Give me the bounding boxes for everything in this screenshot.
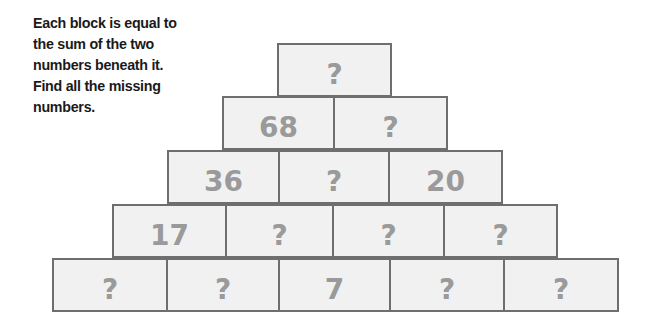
pyramid-block-r5-c2[interactable]: ? [166, 258, 280, 312]
pyramid-block-r2-c2[interactable]: ? [333, 96, 448, 150]
pyramid-block-r4-c1[interactable]: 17 [112, 204, 227, 258]
pyramid-block-r5-c1[interactable]: ? [52, 258, 168, 312]
pyramid-block-r5-c4[interactable]: ? [389, 258, 505, 312]
pyramid-block-r5-c3[interactable]: 7 [278, 258, 391, 312]
pyramid-block-r3-c2[interactable]: ? [278, 150, 390, 204]
pyramid-block-r4-c2[interactable]: ? [225, 204, 334, 258]
pyramid-block-r1-c1[interactable]: ? [277, 43, 392, 97]
pyramid-block-r2-c1[interactable]: 68 [222, 96, 335, 150]
pyramid-block-r3-c1[interactable]: 36 [167, 150, 280, 204]
pyramid-block-r4-c3[interactable]: ? [332, 204, 445, 258]
pyramid-block-r4-c4[interactable]: ? [443, 204, 558, 258]
instructions-text: Each block is equal to the sum of the tw… [33, 12, 180, 117]
pyramid-block-r3-c3[interactable]: 20 [388, 150, 503, 204]
pyramid-block-r5-c5[interactable]: ? [503, 258, 619, 312]
